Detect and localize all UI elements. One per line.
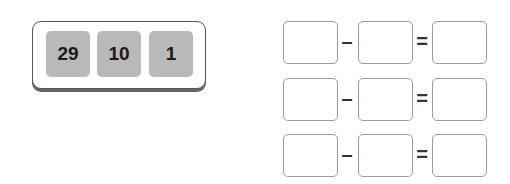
result-box-3[interactable] (432, 134, 487, 177)
number-card: 29 10 1 (32, 21, 206, 89)
minus-sign: – (341, 31, 353, 51)
subtrahend-box-3[interactable] (358, 134, 413, 177)
result-box-2[interactable] (432, 78, 487, 121)
subtrahend-box-1[interactable] (358, 21, 413, 64)
number-tile[interactable]: 29 (46, 31, 90, 77)
minuend-box-2[interactable] (283, 78, 338, 121)
result-box-1[interactable] (432, 21, 487, 64)
equals-sign: = (416, 88, 428, 108)
minuend-box-3[interactable] (283, 134, 338, 177)
minus-sign: – (341, 144, 353, 164)
number-tile[interactable]: 1 (149, 31, 193, 77)
equals-sign: = (416, 144, 428, 164)
minuend-box-1[interactable] (283, 21, 338, 64)
number-tile[interactable]: 10 (97, 31, 141, 77)
minus-sign: – (341, 88, 353, 108)
subtrahend-box-2[interactable] (358, 78, 413, 121)
equals-sign: = (416, 31, 428, 51)
